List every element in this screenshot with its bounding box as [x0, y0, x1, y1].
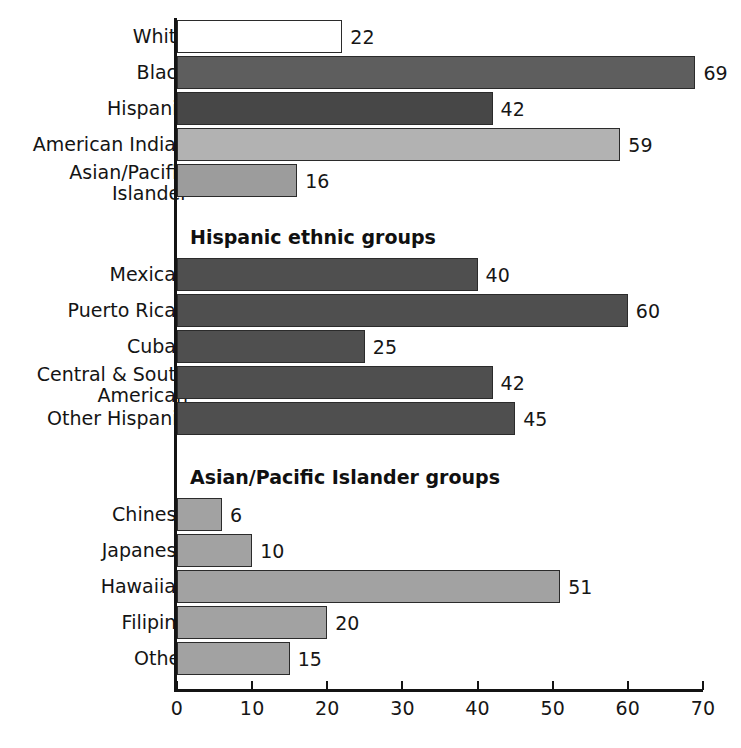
bar-value-american-indian: 59 [628, 134, 652, 156]
bar-cuban[interactable] [177, 330, 365, 363]
bar-label-mexican: Mexican [0, 264, 188, 285]
x-tick-70 [702, 681, 704, 690]
bar-label-american-indian: American Indian [0, 134, 188, 155]
bar-value-cuban: 25 [373, 336, 397, 358]
bar-label-filipino: Filipino [0, 612, 188, 633]
bar-hispanic[interactable] [177, 92, 493, 125]
bar-japanese[interactable] [177, 534, 252, 567]
x-tick-label-60: 60 [616, 697, 641, 719]
bar-other-hispanic[interactable] [177, 402, 515, 435]
bar-central-south-american[interactable] [177, 366, 493, 399]
x-axis-line [174, 689, 703, 692]
bar-label-white: White [0, 26, 188, 47]
bar-value-white: 22 [350, 26, 374, 48]
bar-label-chinese: Chinese [0, 504, 188, 525]
bar-label-hawaiian: Hawaiian [0, 576, 188, 597]
section-heading-hispanic: Hispanic ethnic groups [190, 226, 436, 248]
bar-value-asian-pacific-islander: 16 [305, 170, 329, 192]
x-tick-label-70: 70 [691, 697, 716, 719]
bar-other[interactable] [177, 642, 290, 675]
x-tick-label-20: 20 [315, 697, 340, 719]
bar-value-chinese: 6 [230, 504, 242, 526]
bar-label-hispanic: Hispanic [0, 98, 188, 119]
bar-value-other: 15 [298, 648, 322, 670]
bar-filipino[interactable] [177, 606, 327, 639]
bar-value-puerto-rican: 60 [636, 300, 660, 322]
x-tick-label-40: 40 [465, 697, 490, 719]
bar-value-mexican: 40 [486, 264, 510, 286]
bar-label-black: Black [0, 62, 188, 83]
x-tick-50 [552, 681, 554, 690]
x-tick-20 [326, 681, 328, 690]
section-heading-asian-pacific-islander: Asian/Pacific Islander groups [190, 466, 500, 488]
x-tick-label-30: 30 [390, 697, 415, 719]
bar-puerto-rican[interactable] [177, 294, 628, 327]
bar-black[interactable] [177, 56, 695, 89]
bar-value-black: 69 [703, 62, 727, 84]
bar-value-hawaiian: 51 [568, 576, 592, 598]
bar-american-indian[interactable] [177, 128, 620, 161]
bar-label-cuban: Cuban [0, 336, 188, 357]
bar-white[interactable] [177, 20, 342, 53]
x-tick-30 [401, 681, 403, 690]
bar-value-other-hispanic: 45 [523, 408, 547, 430]
bar-mexican[interactable] [177, 258, 478, 291]
bar-asian-pacific-islander[interactable] [177, 164, 297, 197]
bar-label-asian-pacific-islander: Asian/Pacific Islander [0, 162, 188, 204]
bar-value-central-south-american: 42 [501, 372, 525, 394]
x-tick-label-50: 50 [540, 697, 565, 719]
bar-value-filipino: 20 [335, 612, 359, 634]
bar-chinese[interactable] [177, 498, 222, 531]
bar-label-puerto-rican: Puerto Rican [0, 300, 188, 321]
bar-label-other-hispanic: Other Hispanic [0, 408, 188, 429]
bar-hawaiian[interactable] [177, 570, 560, 603]
bar-value-hispanic: 42 [501, 98, 525, 120]
x-tick-label-10: 10 [240, 697, 265, 719]
bar-value-japanese: 10 [260, 540, 284, 562]
bar-label-central-south-american: Central & South American [0, 364, 188, 406]
x-tick-60 [627, 681, 629, 690]
x-tick-10 [251, 681, 253, 690]
x-tick-40 [477, 681, 479, 690]
bar-chart: 010203040506070 Hispanic ethnic groups A… [0, 0, 741, 748]
bar-label-other: Other [0, 648, 188, 669]
bar-label-japanese: Japanese [0, 540, 188, 561]
x-tick-0 [176, 681, 178, 690]
x-tick-label-0: 0 [171, 697, 183, 719]
